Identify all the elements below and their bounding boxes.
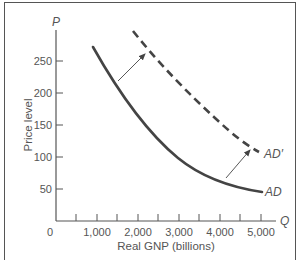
x-tick-label: 3,000 (165, 226, 193, 238)
x-tick-label: 4,000 (206, 226, 234, 238)
y-tick-label: 100 (34, 151, 52, 163)
shift-arrow-upper (118, 54, 145, 81)
y-tick-label: 150 (34, 119, 52, 131)
origin-label: 0 (47, 226, 53, 238)
x-ticks (76, 214, 261, 221)
y-tick-label: 250 (34, 55, 52, 67)
x-tick-label: 1,000 (83, 226, 111, 238)
shift-arrow-lower (226, 150, 250, 178)
ad-prime-label: AD′ (263, 147, 284, 161)
y-ticks (56, 61, 63, 189)
y-tick-label: 50 (40, 183, 52, 195)
y-tick-label: 200 (34, 87, 52, 99)
q-axis-label: Q (280, 214, 289, 228)
y-axis-title: Price level (22, 98, 34, 151)
ad-label: AD (264, 185, 282, 199)
ad-shift-chart: 250 200 150 100 50 0 1,000 2,000 3,000 4… (0, 0, 300, 262)
p-axis-label: P (52, 15, 60, 29)
ad-curve (93, 47, 262, 192)
x-axis-title: Real GNP (billions) (117, 240, 215, 252)
x-tick-label: 2,000 (124, 226, 152, 238)
x-tick-label: 5,000 (247, 226, 275, 238)
